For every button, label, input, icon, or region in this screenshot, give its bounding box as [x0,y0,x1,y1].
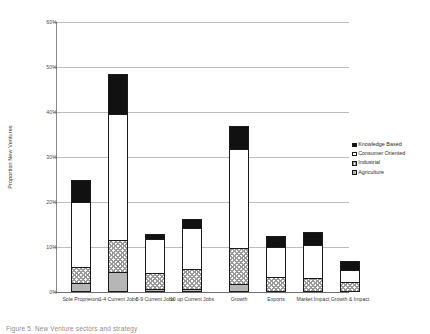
bar-segment-agriculture[interactable] [108,272,128,292]
bar-segment-industrial[interactable] [303,278,323,292]
bar-segment-knowledge[interactable] [182,219,202,228]
bar-segment-knowledge[interactable] [303,232,323,246]
legend-label: Industrial [358,160,380,166]
bar-segment-agriculture[interactable] [145,289,165,292]
bar-segment-industrial[interactable] [145,273,165,290]
y-axis-tick-mark [53,202,56,203]
gridline [57,202,349,203]
bar-segment-consumer[interactable] [182,228,202,269]
y-axis-tick-label: 60% [17,19,57,25]
figure-caption: Figure 5. New Venture sectors and strate… [6,325,426,334]
plot-area: 0%10%20%30%40%50%60% Sole Proprietors1-4… [57,22,349,292]
legend-label: Consumer Oriented [358,151,405,157]
y-axis-tick-mark [53,22,56,23]
stacked-bar[interactable] [108,74,128,292]
y-axis-tick-label: 10% [17,244,57,250]
y-axis-tick-mark [53,247,56,248]
bar-segment-consumer[interactable] [145,239,165,273]
bar-segment-knowledge[interactable] [266,236,286,247]
y-axis-tick-label: 30% [17,154,57,160]
legend-item[interactable]: Knowledge Based [352,142,428,148]
bar-segment-agriculture[interactable] [182,289,202,292]
bar-segment-consumer[interactable] [266,247,286,277]
legend-item[interactable]: Agriculture [352,170,428,176]
bar-segment-industrial[interactable] [229,248,249,284]
gridline [57,67,349,68]
stacked-bar[interactable] [303,232,323,292]
bar-segment-knowledge[interactable] [340,261,360,270]
bar-segment-agriculture[interactable] [229,284,249,292]
stacked-bar[interactable] [266,236,286,292]
bar-segment-knowledge[interactable] [229,126,249,149]
y-axis-tick-mark [53,67,56,68]
bar-segment-consumer[interactable] [229,149,249,248]
stacked-bar[interactable] [340,261,360,292]
legend-swatch-consumer [352,152,357,157]
stacked-bar[interactable] [71,180,91,293]
bar-segment-knowledge[interactable] [108,74,128,115]
bar-segment-knowledge[interactable] [71,180,91,203]
bar-segment-industrial[interactable] [266,277,286,292]
bar-segment-industrial[interactable] [340,282,360,292]
gridline [57,22,349,23]
legend-swatch-agriculture [352,170,357,175]
legend-label: Agriculture [358,170,384,176]
stacked-bar[interactable] [145,234,165,292]
y-axis-tick-mark [53,112,56,113]
stacked-bar[interactable] [229,126,249,292]
bar-segment-consumer[interactable] [303,245,323,277]
x-axis-tick-label: 10 up Current Jobs [169,296,215,304]
y-axis-tick-mark [53,292,56,293]
y-axis-tick-mark [53,157,56,158]
chart-legend: Knowledge BasedConsumer OrientedIndustri… [352,142,428,179]
bar-segment-industrial[interactable] [182,269,202,289]
stacked-bar[interactable] [182,219,202,292]
legend-item[interactable]: Industrial [352,160,428,166]
x-axis-line [56,292,349,293]
bar-segment-consumer[interactable] [71,202,91,267]
y-axis-tick-label: 50% [17,64,57,70]
gridline [57,112,349,113]
bar-segment-consumer[interactable] [108,114,128,240]
y-axis-tick-label: 40% [17,109,57,115]
chart-figure: Proportion New Ventures 0%10%20%30%40%50… [0,0,430,334]
legend-label: Knowledge Based [358,142,401,148]
legend-swatch-knowledge [352,143,357,148]
bar-segment-consumer[interactable] [340,270,360,282]
bar-segment-industrial[interactable] [108,240,128,272]
bar-segment-industrial[interactable] [71,267,91,283]
legend-swatch-industrial [352,161,357,166]
gridline [57,157,349,158]
legend-item[interactable]: Consumer Oriented [352,151,428,157]
y-axis-tick-label: 0% [17,289,57,295]
y-axis-tick-label: 20% [17,199,57,205]
x-axis-tick-label: Growth & Impact [327,296,373,304]
y-axis-title: Proportion New Ventures [7,125,13,188]
bar-segment-agriculture[interactable] [71,283,91,292]
